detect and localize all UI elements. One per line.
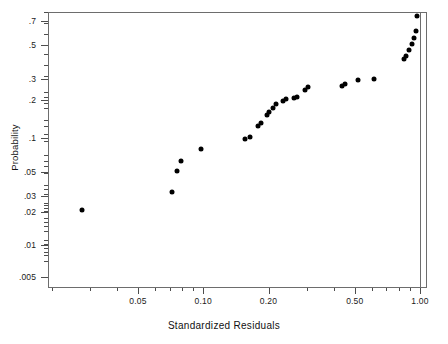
data-point xyxy=(415,14,420,19)
y-tick-major xyxy=(41,196,48,197)
data-point xyxy=(306,85,311,90)
x-tick-minor xyxy=(182,288,183,291)
data-point xyxy=(178,159,183,164)
x-tick-minor xyxy=(399,288,400,291)
y-tick-minor xyxy=(44,65,48,66)
y-tick-major xyxy=(41,138,48,139)
y-tick-major xyxy=(41,21,48,22)
y-tick-minor xyxy=(44,240,48,241)
y-tick-minor xyxy=(44,218,48,219)
x-tick-major xyxy=(203,288,204,294)
y-tick-minor xyxy=(44,103,48,104)
y-tick-label: .01 xyxy=(24,241,36,250)
y-tick-minor xyxy=(44,208,48,209)
x-tick-minor xyxy=(386,288,387,291)
y-tick-minor xyxy=(44,54,48,55)
data-point xyxy=(247,134,252,139)
x-tick-label: 1.00 xyxy=(411,296,428,306)
x-tick-minor xyxy=(193,288,194,291)
x-tick-label: 0.50 xyxy=(346,296,363,306)
y-tick-label: .03 xyxy=(24,192,36,201)
x-tick-minor xyxy=(334,288,335,291)
y-tick-major xyxy=(41,212,48,213)
y-tick-minor xyxy=(44,226,48,227)
y-tick-major xyxy=(41,45,48,46)
data-point xyxy=(342,81,347,86)
y-tick-minor xyxy=(44,189,48,190)
x-tick-label: 0.20 xyxy=(260,296,277,306)
y-tick-major xyxy=(41,277,48,278)
y-tick-label: .05 xyxy=(24,168,36,177)
data-point xyxy=(403,54,408,59)
y-tick-minor xyxy=(44,108,48,109)
y-tick-minor xyxy=(44,255,48,256)
y-tick-label: .1 xyxy=(29,134,36,143)
y-tick-minor xyxy=(44,248,48,249)
x-tick-minor xyxy=(170,288,171,291)
y-tick-minor xyxy=(44,155,48,156)
y-tick-label: .5 xyxy=(29,41,36,50)
x-tick-minor xyxy=(269,288,270,291)
y-tick-minor xyxy=(44,185,48,186)
y-tick-label: .7 xyxy=(29,17,36,26)
y-tick-minor xyxy=(44,23,48,24)
y-tick-label: .2 xyxy=(29,96,36,105)
y-tick-minor xyxy=(44,120,48,121)
x-tick-minor xyxy=(138,288,139,291)
y-tick-label: .3 xyxy=(29,75,36,84)
y-tick-major xyxy=(41,100,48,101)
y-tick-minor xyxy=(44,134,48,135)
y-axis-title: Probability xyxy=(9,108,20,188)
x-axis-title: Standardized Residuals xyxy=(0,320,448,331)
x-tick-minor xyxy=(52,288,53,291)
y-tick-minor xyxy=(44,205,48,206)
data-point xyxy=(274,101,279,106)
x-tick-minor xyxy=(155,288,156,291)
y-tick-minor xyxy=(44,97,48,98)
y-tick-minor xyxy=(44,222,48,223)
y-tick-minor xyxy=(44,92,48,93)
y-tick-label: .02 xyxy=(24,208,36,217)
x-tick-minor xyxy=(372,288,373,291)
data-point xyxy=(355,78,360,83)
data-point xyxy=(410,41,415,46)
y-tick-minor xyxy=(44,34,48,35)
x-tick-minor xyxy=(90,288,91,291)
y-tick-minor xyxy=(44,12,48,13)
y-tick-minor xyxy=(44,261,48,262)
plot-frame xyxy=(48,12,427,288)
data-point xyxy=(270,106,275,111)
y-tick-minor xyxy=(44,231,48,232)
data-point xyxy=(175,168,180,173)
data-point xyxy=(294,94,299,99)
data-point xyxy=(412,35,417,40)
data-point xyxy=(267,110,272,115)
y-tick-major xyxy=(41,245,48,246)
x-tick-label: 0.10 xyxy=(195,296,212,306)
y-tick-label: .005 xyxy=(19,273,36,282)
y-tick-minor xyxy=(44,194,48,195)
data-point xyxy=(169,189,174,194)
data-point xyxy=(284,97,289,102)
x-tick-minor xyxy=(410,288,411,291)
x-tick-minor xyxy=(307,288,308,291)
y-tick-minor xyxy=(44,161,48,162)
data-point xyxy=(407,48,412,53)
x-tick-minor xyxy=(355,288,356,291)
y-tick-minor xyxy=(44,211,48,212)
x-axis-max-rule xyxy=(420,12,421,289)
y-tick-minor xyxy=(44,173,48,174)
data-point xyxy=(259,121,264,126)
x-tick-major xyxy=(420,288,421,294)
y-tick-minor xyxy=(44,141,48,142)
y-tick-minor xyxy=(44,244,48,245)
x-tick-label: 0.05 xyxy=(129,296,146,306)
x-tick-minor xyxy=(117,288,118,291)
data-point xyxy=(199,146,204,151)
y-tick-minor xyxy=(44,76,48,77)
data-point xyxy=(413,29,418,34)
y-tick-minor xyxy=(44,126,48,127)
data-point xyxy=(371,77,376,82)
y-tick-major xyxy=(41,79,48,80)
y-tick-minor xyxy=(44,252,48,253)
